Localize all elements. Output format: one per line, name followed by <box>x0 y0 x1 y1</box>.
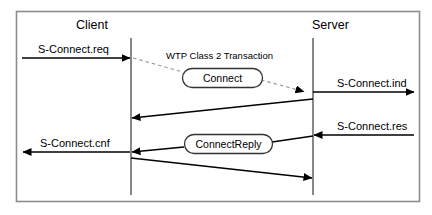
actor-label-server: Server <box>312 19 349 32</box>
message-label-s-connect-req: S-Connect.req <box>38 44 109 55</box>
pdu-label-connect-reply: ConnectReply <box>184 139 273 150</box>
message-label-s-connect-cnf: S-Connect.cnf <box>40 138 110 149</box>
diagram-frame <box>17 12 420 202</box>
actor-label-client: Client <box>76 19 108 32</box>
pdu-label-connect: Connect <box>182 73 263 84</box>
message-label-s-connect-res: S-Connect.res <box>337 121 407 132</box>
message-label-s-connect-ind: S-Connect.ind <box>337 78 407 89</box>
transaction-label: WTP Class 2 Transaction <box>166 51 273 61</box>
sequence-diagram: Client Server WTP Class 2 Transaction S-… <box>0 0 432 215</box>
diagram-canvas <box>0 0 432 215</box>
